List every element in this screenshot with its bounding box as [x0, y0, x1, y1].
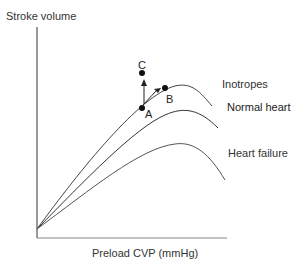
- heart-failure-label: Heart failure: [228, 147, 288, 159]
- point-c-label: C: [138, 59, 146, 71]
- inotropes-label: Inotropes: [222, 78, 268, 90]
- arrowhead-c-icon: [141, 79, 147, 86]
- point-b-label: B: [166, 93, 173, 105]
- point-b: [162, 85, 168, 91]
- arrow-a-to-b: [143, 90, 157, 105]
- x-axis-label: Preload CVP (mmHg): [92, 247, 198, 259]
- normal-heart-label: Normal heart: [227, 101, 291, 113]
- inotropes-curve: [37, 85, 212, 229]
- y-axis-label: Stroke volume: [6, 10, 76, 22]
- heart-failure-curve: [37, 144, 225, 229]
- normal-heart-curve: [37, 110, 218, 229]
- point-a-label: A: [145, 108, 152, 120]
- frank-starling-diagram: [0, 0, 303, 265]
